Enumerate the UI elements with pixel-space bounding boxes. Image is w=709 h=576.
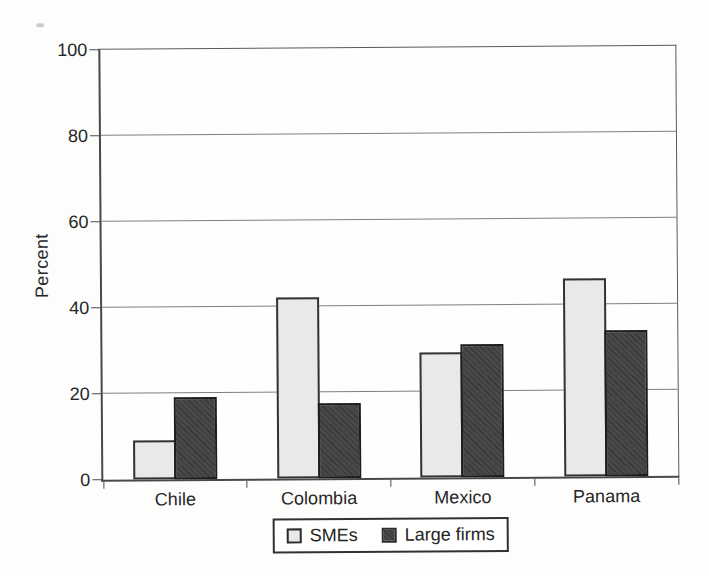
y-tick-label-20: 20 [70, 385, 90, 403]
bar-chile-large-firms [174, 397, 218, 479]
x-axis-label-colombia: Colombia [281, 488, 357, 510]
y-tick-mark-60 [91, 221, 101, 222]
legend: SMEsLarge firms [273, 517, 509, 554]
y-tick-label-60: 60 [68, 213, 88, 231]
x-axis-label-mexico: Mexico [434, 487, 491, 508]
bar-panama-large-firms [604, 330, 648, 476]
x-tick-mark-3 [534, 479, 535, 486]
legend-item-large-firms: Large firms [382, 524, 495, 546]
x-tick-mark-0 [103, 482, 104, 489]
bar-mexico-smes [420, 353, 464, 478]
y-tick-label-80: 80 [68, 127, 88, 145]
category-group-mexico [388, 47, 535, 478]
y-tick-label-100: 100 [57, 41, 87, 59]
plot-area: 020406080100ChileColombiaMexicoPanama [98, 45, 679, 482]
bar-panama-smes [563, 278, 607, 476]
x-tick-mark-4 [678, 478, 679, 485]
scan-smudge-artifact [36, 23, 44, 27]
legend-label-large-firms: Large firms [405, 524, 495, 546]
x-axis-label-chile: Chile [155, 489, 196, 510]
y-tick-mark-0 [92, 479, 102, 480]
legend-swatch-smes [287, 528, 302, 543]
legend-item-smes: SMEs [287, 525, 358, 546]
scanned-chart-figure: Percent 020406080100ChileColombiaMexicoP… [0, 0, 709, 576]
y-axis-title: Percent [31, 233, 52, 298]
category-group-panama [532, 46, 679, 477]
legend-row: SMEsLarge firms [102, 516, 680, 555]
bar-colombia-smes [276, 298, 320, 479]
y-tick-label-0: 0 [80, 471, 90, 489]
x-axis-label-panama: Panama [573, 486, 640, 507]
category-group-chile [100, 49, 247, 480]
x-tick-mark-1 [247, 481, 248, 488]
y-tick-label-40: 40 [69, 299, 89, 317]
bar-colombia-large-firms [317, 403, 361, 479]
y-axis-title-wrap: Percent [20, 49, 63, 482]
legend-label-smes: SMEs [310, 525, 358, 546]
y-tick-mark-40 [91, 307, 101, 308]
bar-mexico-large-firms [461, 344, 505, 478]
x-tick-mark-2 [390, 480, 391, 487]
bar-chart: Percent 020406080100ChileColombiaMexicoP… [0, 0, 709, 576]
y-tick-mark-20 [92, 393, 102, 394]
legend-swatch-large-firms [382, 528, 397, 543]
y-tick-mark-80 [90, 135, 100, 136]
bar-chile-smes [133, 441, 176, 480]
y-tick-mark-100 [89, 49, 99, 50]
category-group-colombia [244, 48, 391, 479]
